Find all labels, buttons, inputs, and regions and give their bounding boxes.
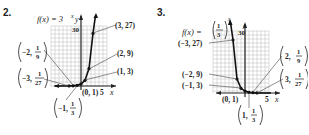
svg-text:27: 27 bbox=[35, 79, 42, 86]
point-label-neg1-1-3: −1, 1 3 bbox=[55, 98, 82, 118]
point-label-0-1: (0, 1) bbox=[222, 95, 239, 104]
point-label-2-1-9: 2, 1 9 bbox=[281, 46, 308, 66]
point-label-neg1-3: (−1, 3) bbox=[182, 81, 203, 90]
point-label-2-9: (2, 9) bbox=[117, 49, 134, 58]
svg-text:2,: 2, bbox=[285, 52, 291, 61]
x-tick-5: 5 bbox=[100, 88, 104, 97]
svg-text:27: 27 bbox=[295, 80, 302, 87]
point-label-3-1-27: 3, 1 27 bbox=[281, 69, 309, 89]
exponential-decay-graph: f(x) = 1 3 x y 30 5 x (−3, 27) (−2, 9) (… bbox=[154, 0, 308, 135]
svg-text:3: 3 bbox=[71, 109, 75, 116]
point-label-neg3-1-27: −3, 1 27 bbox=[19, 68, 48, 88]
point-label-3-27: (3, 27) bbox=[115, 21, 135, 30]
svg-text:1: 1 bbox=[38, 70, 41, 77]
graph-panel-one-third-power-x: 3. bbox=[154, 0, 308, 135]
point-label-0-1: (0, 1) bbox=[82, 88, 99, 97]
svg-text:1: 1 bbox=[217, 22, 220, 29]
y-tick-30: 30 bbox=[238, 29, 246, 37]
svg-text:−3,: −3, bbox=[22, 74, 32, 83]
grid bbox=[51, 26, 107, 87]
function-label: f(x) = 1 3 x bbox=[182, 16, 231, 39]
x-tick-5: 5 bbox=[265, 95, 269, 104]
svg-text:3: 3 bbox=[252, 116, 256, 123]
svg-text:1: 1 bbox=[36, 44, 39, 51]
x-axis-label: x bbox=[274, 95, 279, 104]
svg-text:1: 1 bbox=[297, 48, 300, 55]
svg-text:3: 3 bbox=[217, 31, 221, 38]
y-tick-30: 30 bbox=[72, 26, 80, 34]
y-axis-label: y bbox=[74, 15, 79, 24]
svg-text:−2,: −2, bbox=[22, 48, 32, 57]
function-exponent: x bbox=[70, 13, 74, 19]
point-label-neg2-9: (−2, 9) bbox=[182, 70, 203, 79]
svg-text:1,: 1, bbox=[242, 111, 248, 120]
point-label-1-3: (1, 3) bbox=[117, 67, 134, 76]
svg-text:1: 1 bbox=[252, 107, 255, 114]
svg-text:9: 9 bbox=[36, 53, 40, 60]
svg-text:−1,: −1, bbox=[58, 104, 68, 113]
point-label-neg3-27: (−3, 27) bbox=[178, 39, 203, 48]
svg-text:x: x bbox=[227, 16, 231, 22]
x-axis-label: x bbox=[109, 88, 114, 97]
point-label-neg2-1-9: −2, 1 9 bbox=[19, 42, 47, 62]
svg-text:f(x) =: f(x) = bbox=[182, 27, 202, 37]
point-label-1-1-3: 1, 1 3 bbox=[239, 105, 263, 125]
graph-panel-3-power-x: 2. bbox=[0, 0, 154, 135]
svg-text:3,: 3, bbox=[285, 75, 291, 84]
function-label: f(x) = 3 bbox=[37, 14, 63, 24]
exponential-growth-graph: f(x) = 3 x y 30 5 x (3, 27) (2, 9) (1, 3… bbox=[0, 0, 154, 135]
svg-text:9: 9 bbox=[297, 57, 301, 64]
svg-text:1: 1 bbox=[71, 100, 74, 107]
svg-text:1: 1 bbox=[298, 71, 301, 78]
